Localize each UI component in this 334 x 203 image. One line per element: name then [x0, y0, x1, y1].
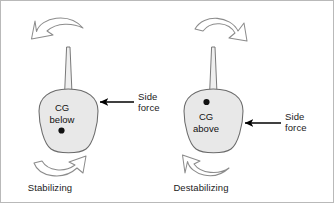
cg-label-right-line2: above — [181, 123, 231, 135]
cg-dot-right — [203, 99, 209, 105]
rotation-arrow-top-right — [195, 18, 247, 41]
outcome-label-right: Destabilizing — [153, 182, 249, 193]
diagram-stage: CG below CG above Side force Side force … — [1, 1, 333, 202]
side-force-label-right-line1: Side — [285, 111, 329, 122]
mast-right — [210, 47, 217, 91]
cg-dot-left — [58, 127, 64, 133]
side-force-label-left: Side force — [138, 91, 182, 113]
cg-label-left-line2: below — [37, 114, 87, 126]
rotation-arrow-top-left — [32, 18, 84, 39]
cg-label-left-line1: CG — [37, 102, 87, 114]
rotation-arrow-bottom-right — [183, 155, 230, 176]
side-force-label-right: Side force — [285, 111, 329, 133]
cg-label-right-line1: CG — [181, 111, 231, 123]
rotation-arrow-bottom-left — [34, 156, 86, 176]
figure-frame: CG below CG above Side force Side force … — [0, 0, 334, 203]
side-force-label-right-line2: force — [285, 122, 329, 133]
cg-label-left: CG below — [37, 102, 87, 125]
outcome-label-left: Stabilizing — [9, 182, 91, 193]
side-force-label-left-line1: Side — [138, 91, 182, 102]
mast-left — [65, 47, 72, 91]
side-force-label-left-line2: force — [138, 102, 182, 113]
cg-label-right: CG above — [181, 111, 231, 134]
